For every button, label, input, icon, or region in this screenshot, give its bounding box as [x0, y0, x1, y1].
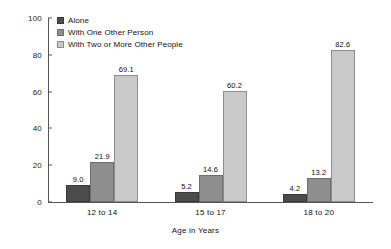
- legend-label: With Two or More Other People: [68, 40, 183, 49]
- legend: AloneWith One Other PersonWith Two or Mo…: [57, 15, 183, 49]
- bar: 82.6: [331, 50, 355, 202]
- legend-swatch-icon: [57, 17, 64, 24]
- legend-swatch-icon: [57, 29, 64, 36]
- x-axis-title: Age in Years: [0, 226, 391, 235]
- bar-value-label: 60.2: [227, 81, 242, 90]
- legend-item: Alone: [57, 15, 183, 25]
- bar-chart: Percent 020406080100 9.021.969.15.214.66…: [0, 0, 391, 249]
- bar: 60.2: [223, 91, 247, 202]
- bar-value-label: 4.2: [289, 184, 300, 193]
- bar: 21.9: [90, 162, 114, 202]
- bar: 69.1: [114, 75, 138, 202]
- bar-value-label: 82.6: [335, 40, 350, 49]
- bar-value-label: 69.1: [119, 65, 134, 74]
- bar: 14.6: [199, 175, 223, 202]
- y-tick-label: 100: [0, 14, 42, 23]
- bar-value-label: 21.9: [95, 152, 110, 161]
- bar: 5.2: [175, 192, 199, 202]
- bar-value-label: 13.2: [311, 168, 326, 177]
- legend-label: With One Other Person: [68, 28, 153, 37]
- legend-swatch-icon: [57, 41, 64, 48]
- x-axis-line: [48, 202, 373, 203]
- bar: 4.2: [283, 194, 307, 202]
- legend-item: With Two or More Other People: [57, 39, 183, 49]
- y-tick-label: 40: [0, 124, 42, 133]
- bar-value-label: 5.2: [181, 182, 192, 191]
- y-tick-label: 80: [0, 50, 42, 59]
- y-tick-label: 60: [0, 87, 42, 96]
- y-tick-label: 0: [0, 198, 42, 207]
- legend-label: Alone: [68, 16, 89, 25]
- bar: 13.2: [307, 178, 331, 202]
- x-category-label: 12 to 14: [87, 208, 118, 217]
- bar-value-label: 9.0: [73, 175, 84, 184]
- x-category-label: 18 to 20: [304, 208, 335, 217]
- y-tick-label: 20: [0, 161, 42, 170]
- bar: 9.0: [66, 185, 90, 202]
- bar-value-label: 14.6: [203, 165, 218, 174]
- legend-item: With One Other Person: [57, 27, 183, 37]
- x-category-label: 15 to 17: [195, 208, 226, 217]
